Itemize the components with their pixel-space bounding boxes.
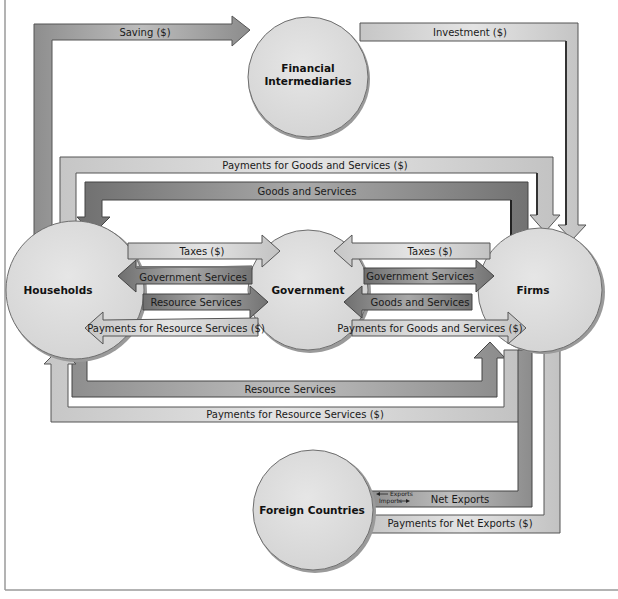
saving-label: Saving ($)	[119, 27, 170, 38]
goods-services-top-label: Goods and Services	[258, 186, 357, 197]
taxes-firms-label: Taxes ($)	[407, 246, 453, 257]
firms-label: Firms	[516, 284, 549, 296]
investment-label: Investment ($)	[433, 27, 507, 38]
goods-services-gov-label: Goods and Services	[371, 297, 470, 308]
net-exports-label: Net Exports	[431, 494, 490, 505]
resource-services-households-label: Resource Services	[150, 297, 241, 308]
households-label: Households	[24, 284, 93, 296]
financial-intermediaries-label-line2: Intermediaries	[264, 75, 351, 87]
financial-intermediaries-node: Financial Intermediaries	[248, 17, 370, 140]
households-node: Households	[6, 221, 147, 362]
taxes-households-label: Taxes ($)	[179, 246, 225, 257]
foreign-countries-label: Foreign Countries	[259, 504, 365, 516]
payments-resource-services-bottom-label: Payments for Resource Services ($)	[206, 409, 384, 420]
resource-services-bottom-label: Resource Services	[244, 384, 335, 395]
payments-goods-services-top-label: Payments for Goods and Services ($)	[222, 160, 407, 171]
government-label: Government	[271, 284, 344, 296]
payments-net-exports-label: Payments for Net Exports ($)	[387, 518, 532, 529]
government-services-households-label: Government Services	[139, 272, 247, 283]
government-services-firms-label: Government Services	[366, 271, 474, 282]
payments-resource-services-gov-label: Payments for Resource Services ($)	[87, 323, 265, 334]
payments-goods-services-gov-label: Payments for Goods and Services ($)	[337, 323, 522, 334]
financial-intermediaries-label-line1: Financial	[281, 62, 334, 74]
circular-flow-diagram: Saving ($) Investment ($) Payments for G…	[0, 0, 618, 599]
foreign-countries-node: Foreign Countries	[253, 450, 376, 573]
